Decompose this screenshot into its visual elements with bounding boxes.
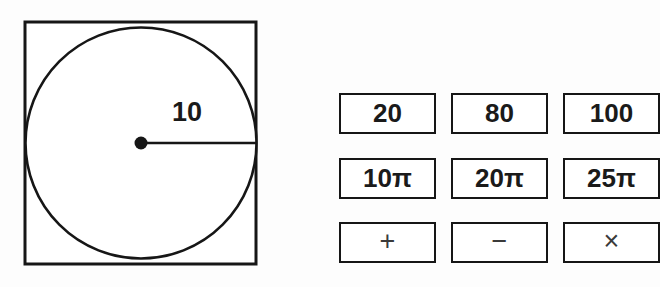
choice-button-20[interactable]: 20: [339, 93, 436, 134]
choice-button-plus[interactable]: +: [339, 222, 436, 263]
choice-label: 100: [590, 100, 633, 126]
radius-measure-label: 10: [172, 99, 202, 126]
answer-choice-grid: 20 80 100 10π 20π 25π +: [339, 93, 633, 265]
circle-in-square-diagram: [0, 0, 300, 287]
choice-button-20pi[interactable]: 20π: [451, 158, 548, 199]
choice-label: 10π: [363, 165, 412, 191]
choice-label: 20: [373, 100, 402, 126]
center-point-dot: [135, 137, 148, 150]
choice-button-10pi[interactable]: 10π: [339, 158, 436, 199]
choice-label: 25π: [587, 165, 636, 191]
choice-row-operators: + − ×: [339, 222, 633, 263]
choice-button-80[interactable]: 80: [451, 93, 548, 134]
choice-button-multiply[interactable]: ×: [563, 222, 660, 263]
choice-button-25pi[interactable]: 25π: [563, 158, 660, 199]
choice-label: 80: [485, 100, 514, 126]
choice-label: 20π: [475, 165, 524, 191]
choice-button-100[interactable]: 100: [563, 93, 660, 134]
plus-icon: +: [380, 228, 396, 255]
minus-icon: −: [492, 228, 508, 255]
geometry-figure: 10: [0, 0, 300, 287]
choice-row-values: 20 80 100: [339, 93, 633, 134]
choice-button-minus[interactable]: −: [451, 222, 548, 263]
choice-row-pi-values: 10π 20π 25π: [339, 158, 633, 199]
multiply-icon: ×: [604, 228, 620, 255]
